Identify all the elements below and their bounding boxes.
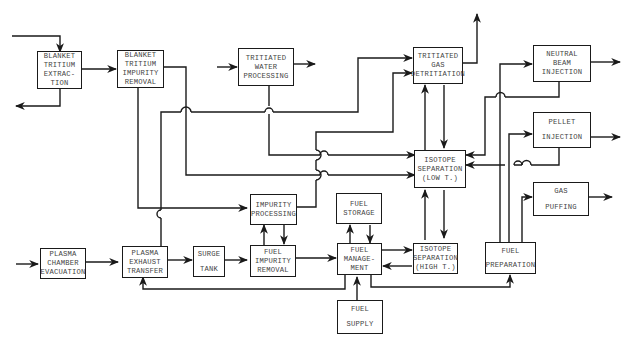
box-surge-tank: SURGE TANK — [193, 246, 225, 277]
fuel-cycle-diagram: BLANKET TRITIUM EXTRAC- TION BLANKET TRI… — [0, 0, 632, 345]
box-plasma-exhaust-transfer: PLASMA EXHAUST TRANSFER — [122, 246, 168, 278]
box-isotope-separation-high-t: ISOTOPE SEPARATION (HIGH T.) — [413, 243, 458, 274]
box-gas-puffing: GAS PUFFING — [533, 182, 589, 216]
box-isotope-separation-low-t: ISOTOPE SEPARATION (LOW T.) — [414, 150, 466, 188]
box-plasma-chamber-evacuation: PLASMA CHAMBER EVACUATION — [40, 248, 86, 279]
box-impurity-processing: IMPURITY PROCESSING — [250, 194, 297, 225]
box-fuel-supply: FUEL SUPPLY — [337, 300, 383, 334]
box-pellet-injection: PELLET INJECTION — [533, 112, 591, 148]
box-fuel-preparation: FUEL PREPARATION — [485, 242, 536, 274]
box-tritiated-gas-detritiation: TRITIATED GAS DETRITIATION — [413, 47, 463, 84]
box-tritiated-water-processing: TRITIATED WATER PROCESSING — [238, 48, 294, 86]
box-blanket-tritium-impurity-removal: BLANKET TRITIUM IMPURITY REMOVAL — [117, 50, 164, 88]
box-fuel-management: FUEL MANAGE- MENT — [337, 243, 382, 275]
box-blanket-tritium-extraction: BLANKET TRITIUM EXTRAC- TION — [37, 51, 82, 89]
box-neutral-beam-injection: NEUTRAL BEAM INJECTION — [533, 45, 591, 82]
box-fuel-storage: FUEL STORAGE — [336, 193, 382, 224]
box-fuel-impurity-removal: FUEL IMPURITY REMOVAL — [250, 245, 296, 277]
